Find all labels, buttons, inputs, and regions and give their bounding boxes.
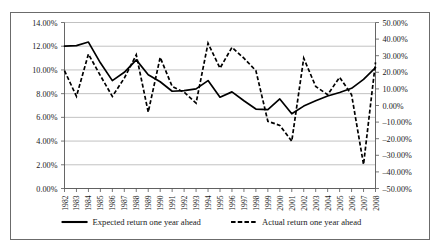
x-axis-tick-label: 1990 <box>156 195 165 210</box>
left-axis-tick-label: 2.00% <box>36 161 57 170</box>
series-line-expected <box>65 42 376 114</box>
right-axis-tick-label: –20.00% <box>382 135 413 144</box>
left-axis-tick-labels: 0.00%2.00%4.00%6.00%8.00%10.00%12.00%14.… <box>32 19 64 194</box>
x-axis-tick-label: 2000 <box>276 195 285 210</box>
x-axis-tick-label: 2006 <box>348 195 357 210</box>
x-axis-tick-labels: 1982198319841985198619871988198919901991… <box>61 189 381 211</box>
x-axis-tick-label: 1988 <box>132 195 141 210</box>
chart-container: 0.00%2.00%4.00%6.00%8.00%10.00%12.00%14.… <box>0 0 440 251</box>
x-axis-tick-label: 1999 <box>264 195 273 210</box>
left-axis-tick-label: 8.00% <box>36 90 57 99</box>
right-axis-tick-label: 50.00% <box>383 19 408 28</box>
x-axis-tick-label: 1982 <box>61 195 70 210</box>
x-axis-tick-label: 1995 <box>216 195 225 210</box>
chart-legend: Expected return one year aheadActual ret… <box>62 217 362 227</box>
x-axis-tick-label: 2001 <box>288 195 297 210</box>
legend-label-expected: Expected return one year ahead <box>93 217 202 227</box>
right-axis-tick-labels: –50.00%–40.00%–30.00%–20.00%–10.00%0.00%… <box>376 19 413 194</box>
right-axis-tick-label: –10.00% <box>382 118 413 127</box>
x-axis-tick-label: 2008 <box>372 195 381 210</box>
right-axis-tick-label: –40.00% <box>382 168 413 177</box>
data-series-group <box>65 42 376 164</box>
right-axis-tick-label: –50.00% <box>382 185 413 194</box>
right-axis-tick-label: 10.00% <box>383 85 408 94</box>
right-axis-tick-label: 40.00% <box>383 35 408 44</box>
right-axis-tick-label: 20.00% <box>383 68 408 77</box>
x-axis-tick-label: 1998 <box>252 195 261 210</box>
x-axis-tick-label: 1986 <box>108 195 117 210</box>
x-axis-tick-label: 1992 <box>180 195 189 210</box>
axes-group <box>65 23 376 189</box>
right-axis-tick-label: 0.00% <box>383 102 404 111</box>
x-axis-tick-label: 1989 <box>144 195 153 210</box>
series-line-actual <box>65 43 376 164</box>
x-axis-tick-label: 1984 <box>84 195 93 210</box>
x-axis-tick-label: 2002 <box>300 195 309 210</box>
x-axis-tick-label: 1985 <box>96 195 105 210</box>
x-axis-tick-label: 2004 <box>324 195 333 210</box>
x-axis-tick-label: 1996 <box>228 195 237 210</box>
x-axis-tick-label: 1993 <box>192 195 201 210</box>
left-axis-tick-label: 10.00% <box>32 66 57 75</box>
left-axis-tick-label: 12.00% <box>32 42 57 51</box>
left-axis-tick-label: 14.00% <box>32 19 57 28</box>
legend-label-actual: Actual return one year ahead <box>262 217 362 227</box>
right-axis-tick-label: –30.00% <box>382 151 413 160</box>
x-axis-tick-label: 1987 <box>120 195 129 210</box>
x-axis-tick-label: 1991 <box>168 195 177 210</box>
x-axis-tick-label: 1994 <box>204 195 213 210</box>
x-axis-tick-label: 1983 <box>72 195 81 210</box>
left-axis-tick-label: 0.00% <box>36 185 57 194</box>
x-axis-tick-label: 2003 <box>312 195 321 210</box>
x-axis-tick-label: 1997 <box>240 195 249 210</box>
x-axis-tick-label: 2005 <box>336 195 345 210</box>
right-axis-tick-label: 30.00% <box>383 52 408 61</box>
gridlines-group <box>65 23 376 189</box>
left-axis-tick-label: 4.00% <box>36 137 57 146</box>
left-axis-tick-label: 6.00% <box>36 113 57 122</box>
x-axis-tick-label: 2007 <box>360 195 369 210</box>
line-chart: 0.00%2.00%4.00%6.00%8.00%10.00%12.00%14.… <box>0 0 440 251</box>
